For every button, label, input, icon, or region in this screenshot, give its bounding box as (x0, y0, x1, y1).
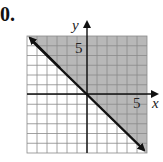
inequality-graph: y x 5 5 (0, 0, 163, 162)
x-tick-label-5: 5 (133, 95, 141, 111)
y-axis-label: y (70, 17, 79, 33)
x-axis-label: x (151, 95, 159, 111)
y-tick-label-5: 5 (75, 40, 83, 56)
